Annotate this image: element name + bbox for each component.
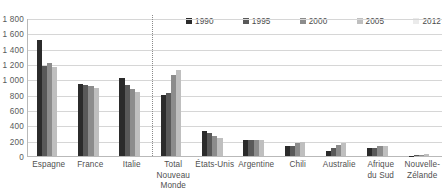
bar-2005[interactable] bbox=[52, 67, 57, 156]
y-tick-800: 800 bbox=[10, 91, 24, 100]
bars-wrap bbox=[119, 19, 145, 156]
x-label-line: États-Unis bbox=[195, 160, 235, 171]
x-label-line: Chili bbox=[278, 160, 318, 171]
bar-group-argentine bbox=[235, 19, 276, 156]
bars-wrap bbox=[78, 19, 104, 156]
bars-wrap bbox=[367, 19, 393, 156]
x-label-line: du Sud bbox=[361, 171, 401, 182]
x-label-line: Total bbox=[154, 160, 194, 171]
bars-wrap bbox=[37, 19, 63, 156]
x-label-espagne: Espagne bbox=[28, 160, 70, 193]
x-label-line: Nouveau bbox=[154, 171, 194, 182]
bars-wrap bbox=[243, 19, 269, 156]
x-label-line: France bbox=[71, 160, 111, 171]
y-tick-400: 400 bbox=[10, 122, 24, 131]
x-label-italie: Italie bbox=[111, 160, 153, 193]
x-label-chili: Chili bbox=[277, 160, 319, 193]
y-axis-tick-labels: 1 8001 6001 4001 2001 0008006004002000 bbox=[0, 19, 24, 157]
x-label-line: Monde bbox=[154, 181, 194, 192]
bar-group-italie bbox=[112, 19, 153, 156]
x-label-total-nouveau-monde: TotalNouveauMonde bbox=[153, 160, 195, 193]
y-tick-1200: 1 200 bbox=[3, 61, 25, 70]
y-tick-1400: 1 400 bbox=[3, 45, 25, 54]
bar-2005[interactable] bbox=[217, 138, 222, 156]
y-tick-600: 600 bbox=[10, 107, 24, 116]
bar-2005[interactable] bbox=[383, 146, 388, 156]
bar-group-afrique-du-sud bbox=[359, 19, 400, 156]
bar-group-australie bbox=[318, 19, 359, 156]
bar-group-france bbox=[70, 19, 111, 156]
bar-group--tats-unis bbox=[194, 19, 235, 156]
y-tick-1600: 1 600 bbox=[3, 30, 25, 39]
bar-group-espagne bbox=[29, 19, 70, 156]
x-label-australie: Australie bbox=[319, 160, 361, 193]
bar-groups bbox=[29, 19, 442, 156]
y-tick-0: 0 bbox=[19, 153, 24, 162]
bar-group-chili bbox=[277, 19, 318, 156]
bars-wrap bbox=[161, 19, 187, 156]
x-label-afrique-du-sud: Afriquedu Sud bbox=[360, 160, 402, 193]
bar-2005[interactable] bbox=[300, 142, 305, 156]
chart-container: 19901995200020052012 1 8001 6001 4001 20… bbox=[0, 0, 445, 193]
x-label-argentine: Argentine bbox=[236, 160, 278, 193]
bars-wrap bbox=[285, 19, 311, 156]
bars-wrap bbox=[326, 19, 352, 156]
x-label-line: Nouvelle- bbox=[403, 160, 443, 171]
bar-2005[interactable] bbox=[424, 154, 429, 156]
bar-2005[interactable] bbox=[259, 140, 264, 156]
bar-group-total-nouveau-monde bbox=[153, 19, 194, 156]
bars-wrap bbox=[409, 19, 435, 156]
x-label-line: Australie bbox=[320, 160, 360, 171]
plot-area bbox=[27, 19, 442, 157]
y-tick-1000: 1 000 bbox=[3, 76, 25, 85]
bar-group-nouvelle-z-lande bbox=[401, 19, 442, 156]
x-label-nouvelle-z-lande: Nouvelle-Zélande bbox=[402, 160, 444, 193]
bar-2005[interactable] bbox=[341, 143, 346, 156]
bar-2005[interactable] bbox=[176, 70, 181, 156]
x-label-line: Espagne bbox=[29, 160, 69, 171]
x-label-line: Afrique bbox=[361, 160, 401, 171]
y-tick-1800: 1 800 bbox=[3, 15, 25, 24]
x-label--tats-unis: États-Unis bbox=[194, 160, 236, 193]
y-tick-200: 200 bbox=[10, 137, 24, 146]
bar-2005[interactable] bbox=[135, 92, 140, 156]
x-label-france: France bbox=[70, 160, 112, 193]
bars-wrap bbox=[202, 19, 228, 156]
x-axis-category-labels: EspagneFranceItalieTotalNouveauMondeÉtat… bbox=[28, 160, 443, 193]
x-label-line: Argentine bbox=[237, 160, 277, 171]
x-label-line: Italie bbox=[112, 160, 152, 171]
x-label-line: Zélande bbox=[403, 171, 443, 182]
bar-2005[interactable] bbox=[94, 88, 99, 156]
